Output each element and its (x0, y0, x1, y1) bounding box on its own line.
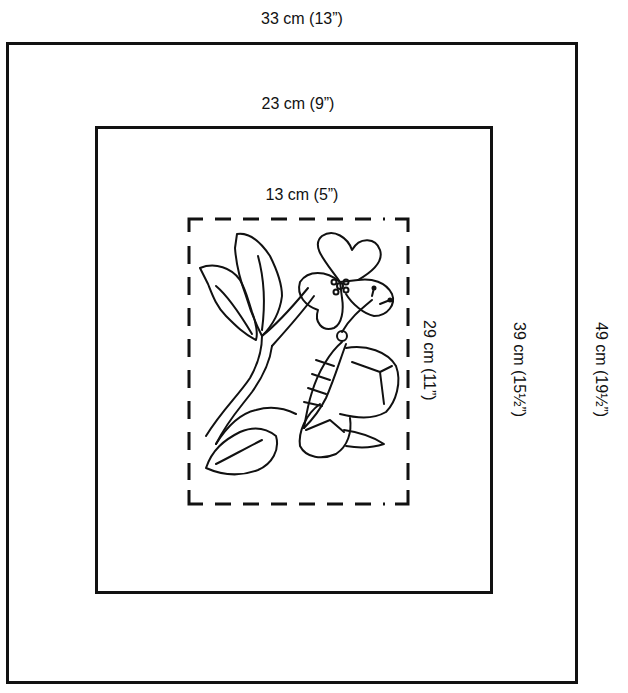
middle-height-label: 39 cm (15½”) (510, 322, 528, 417)
middle-width-label: 23 cm (9”) (262, 95, 335, 113)
inner-height-label: 29 cm (11”) (420, 320, 438, 401)
flower-butterfly-illustration (200, 233, 398, 474)
butterfly (300, 287, 399, 458)
upper-leaf (235, 234, 282, 336)
inner-width-label: 13 cm (5”) (266, 186, 339, 204)
outer-width-label: 33 cm (13”) (261, 10, 343, 28)
flower (299, 233, 393, 329)
outer-height-label: 49 cm (19½”) (592, 322, 610, 417)
